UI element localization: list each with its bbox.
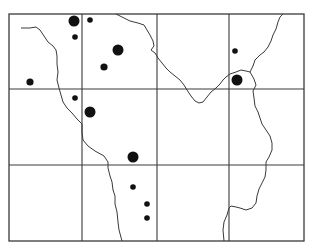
site-small-marker <box>130 184 136 190</box>
site-small-marker <box>72 95 78 101</box>
grid-layer <box>9 14 304 241</box>
site-distribution-map <box>0 0 309 249</box>
site-small-marker <box>72 34 78 40</box>
site-layer <box>26 16 242 221</box>
site-large-marker <box>128 152 139 163</box>
site-small-marker <box>144 215 150 221</box>
site-small-marker <box>232 48 238 54</box>
boundary-layer <box>21 14 283 241</box>
site-large-marker <box>69 16 80 27</box>
northern-river <box>116 14 250 103</box>
site-large-marker <box>113 45 124 56</box>
map-canvas <box>0 0 309 249</box>
site-medium-marker <box>100 63 107 70</box>
site-small-marker <box>87 17 93 23</box>
site-large-marker <box>85 107 96 118</box>
site-medium-marker <box>26 78 33 85</box>
site-small-marker <box>144 201 150 207</box>
southern-river <box>223 72 272 241</box>
north-east-branch <box>250 14 283 72</box>
western-boundary <box>21 27 122 241</box>
site-large-marker <box>232 75 243 86</box>
